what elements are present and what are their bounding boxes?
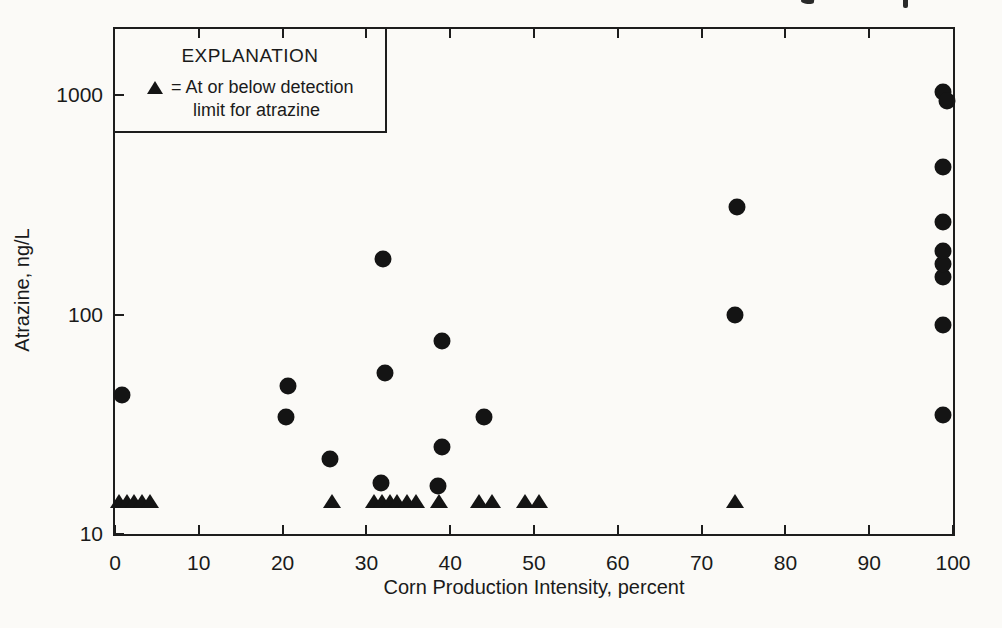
- data-point-circle: [727, 306, 744, 323]
- x-axis-tick-label: 20: [271, 551, 294, 575]
- x-axis-tick-top: [282, 29, 284, 38]
- data-point-circle: [728, 198, 745, 215]
- data-point-triangle: [726, 494, 744, 508]
- y-axis-tick-label: 1000: [56, 83, 103, 107]
- x-axis-title: Corn Production Intensity, percent: [113, 576, 955, 599]
- x-axis-tick: [784, 525, 786, 534]
- x-axis-tick-top: [449, 29, 451, 38]
- x-axis-tick-top: [868, 29, 870, 38]
- data-point-circle: [372, 475, 389, 492]
- x-axis-tick-top: [533, 29, 535, 38]
- x-axis-tick: [617, 525, 619, 534]
- x-axis-tick: [952, 525, 954, 534]
- plot-area: EXPLANATION = At or below detection limi…: [113, 27, 955, 536]
- data-point-circle: [433, 332, 450, 349]
- x-axis-tick-label: 60: [606, 551, 629, 575]
- x-axis-tick-label: 70: [690, 551, 713, 575]
- legend-title: EXPLANATION: [115, 45, 385, 67]
- data-point-circle: [939, 92, 956, 109]
- x-axis-tick-label: 80: [774, 551, 797, 575]
- x-axis-tick: [198, 525, 200, 534]
- x-axis-tick: [282, 525, 284, 534]
- x-axis-tick-top: [784, 29, 786, 38]
- x-axis-tick-top: [617, 29, 619, 38]
- data-point-circle: [475, 409, 492, 426]
- x-axis-tick-label: 10: [187, 551, 210, 575]
- data-point-circle: [429, 478, 446, 495]
- data-point-circle: [934, 316, 951, 333]
- x-axis-tick-top: [365, 29, 367, 38]
- data-point-triangle: [141, 494, 159, 508]
- y-axis-tick-label: 100: [68, 303, 103, 327]
- x-axis-tick-label: 40: [439, 551, 462, 575]
- data-point-circle: [934, 242, 951, 259]
- data-point-circle: [321, 450, 338, 467]
- scatter-figure: Atrazine, ng/L EXPLANATION = At or below…: [0, 0, 1002, 628]
- legend-line2: limit for atrazine: [171, 99, 354, 122]
- data-point-circle: [433, 438, 450, 455]
- data-point-triangle: [430, 494, 448, 508]
- legend-entry: = At or below detection limit for atrazi…: [115, 76, 385, 122]
- y-axis-tick: [115, 314, 124, 316]
- x-axis-tick-label: 30: [355, 551, 378, 575]
- y-axis-title: Atrazine, ng/L: [11, 228, 34, 351]
- x-axis-tick: [533, 525, 535, 534]
- x-axis-tick-label: 100: [935, 551, 970, 575]
- data-point-triangle: [530, 494, 548, 508]
- data-point-circle: [113, 386, 130, 403]
- data-point-circle: [375, 250, 392, 267]
- data-point-circle: [934, 159, 951, 176]
- data-point-triangle: [483, 494, 501, 508]
- data-point-circle: [277, 409, 294, 426]
- y-axis-tick-label: 10: [80, 522, 103, 546]
- x-axis-tick-label: 0: [109, 551, 121, 575]
- data-point-circle: [280, 378, 297, 395]
- x-axis-tick: [701, 525, 703, 534]
- data-point-triangle: [323, 494, 341, 508]
- data-point-triangle: [407, 494, 425, 508]
- y-axis-tick: [115, 533, 124, 535]
- filled-triangle-icon: [147, 81, 163, 94]
- x-axis-tick: [868, 525, 870, 534]
- x-axis-tick-top: [198, 29, 200, 38]
- data-point-circle: [934, 406, 951, 423]
- scan-artifact: [801, 0, 814, 5]
- data-point-circle: [934, 213, 951, 230]
- x-axis-tick-label: 50: [522, 551, 545, 575]
- y-axis-tick: [115, 94, 124, 96]
- x-axis-tick-top: [701, 29, 703, 38]
- data-point-circle: [376, 365, 393, 382]
- x-axis-tick: [365, 525, 367, 534]
- legend-box: EXPLANATION = At or below detection limi…: [115, 29, 387, 133]
- x-axis-tick-label: 90: [858, 551, 881, 575]
- legend-line1: = At or below detection: [171, 76, 354, 99]
- x-axis-tick: [449, 525, 451, 534]
- scan-artifact: [903, 0, 908, 8]
